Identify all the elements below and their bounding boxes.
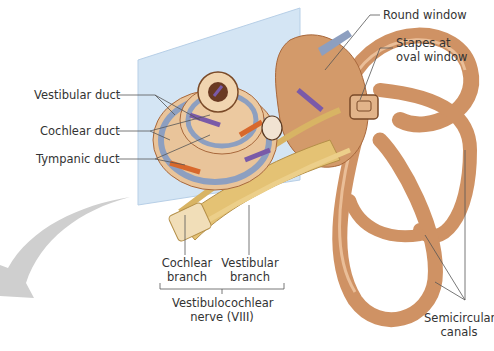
- label-nerve-line2: nerve (VIII): [172, 310, 272, 324]
- label-nerve-line1: Vestibulocochlear: [172, 296, 272, 310]
- label-tympanic-duct: Tympanic duct: [36, 152, 119, 166]
- label-stapes: Stapes at oval window: [396, 36, 467, 64]
- label-cochlear-duct: Cochlear duct: [40, 124, 120, 138]
- label-semicircular-line2: canals: [424, 325, 494, 339]
- label-semicircular-canals: Semicircular canals: [424, 311, 494, 339]
- section-pointer-arrow: [0, 197, 130, 298]
- label-stapes-line1: Stapes at: [396, 36, 467, 50]
- label-vestibular-duct: Vestibular duct: [34, 88, 120, 102]
- label-cochlear-branch: Cochlear branch: [160, 256, 214, 284]
- label-vestibular-branch-line2: branch: [218, 270, 282, 284]
- label-cochlear-branch-line1: Cochlear: [160, 256, 214, 270]
- label-vestibular-branch-line1: Vestibular: [218, 256, 282, 270]
- stapes: [350, 95, 378, 119]
- label-stapes-line2: oval window: [396, 50, 467, 64]
- label-cochlear-branch-line2: branch: [160, 270, 214, 284]
- label-round-window: Round window: [383, 8, 467, 22]
- label-vestibulocochlear-nerve: Vestibulocochlear nerve (VIII): [172, 296, 272, 324]
- label-vestibular-branch: Vestibular branch: [218, 256, 282, 284]
- label-semicircular-line1: Semicircular: [424, 311, 494, 325]
